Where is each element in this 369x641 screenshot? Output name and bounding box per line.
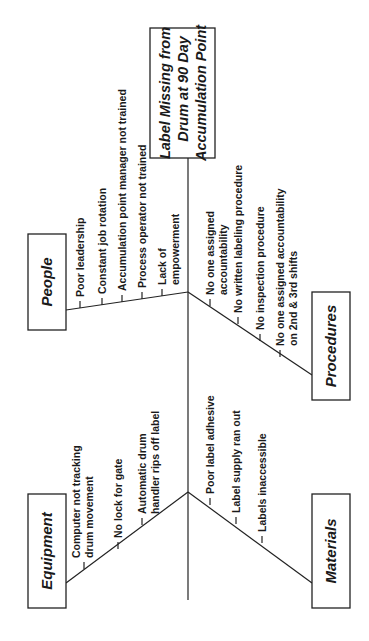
cause-no-one-shifts-1: No one assigned accountability: [274, 188, 286, 346]
category-equipment: Equipment: [28, 494, 66, 608]
cause-label-supply-ran-out: Label supply ran out: [230, 410, 242, 513]
cause-poor-leadership: Poor leadership: [74, 218, 86, 297]
effect-line-2: Drum at 90 Day: [175, 35, 191, 142]
cause-computer-not-tracking-2: drum movement: [83, 476, 95, 558]
cause-automatic-drum-2: handler rips off label: [149, 411, 161, 514]
cause-lack-of-empowerment-1: Lack of: [156, 248, 168, 285]
cause-no-inspection: No inspection procedure: [254, 206, 266, 330]
materials-causes: Poor label adhesive Label supply ran out…: [204, 395, 268, 543]
category-procedures: Procedures: [312, 292, 350, 400]
cause-automatic-drum-1: Automatic drum: [136, 433, 148, 514]
cause-no-one-assigned-1: No one assigned: [204, 211, 216, 295]
effect-line-3: Accumulation Point: [193, 24, 209, 162]
cause-no-one-assigned-2: accountability: [217, 224, 229, 295]
category-label-people: People: [38, 257, 55, 306]
effect-line-1: Label Missing from: [157, 27, 173, 159]
cause-computer-not-tracking-1: Computer not tracking: [70, 445, 82, 558]
cause-manager-not-trained: Accumulation point manager not trained: [116, 89, 128, 291]
effect-box: Label Missing from Drum at 90 Day Accumu…: [150, 24, 215, 162]
fishbone-diagram: Label Missing from Drum at 90 Day Accumu…: [0, 0, 369, 641]
cause-constant-job-rotation: Constant job rotation: [96, 188, 108, 294]
cause-no-one-shifts-2: on 2nd & 3rd shifts: [287, 251, 299, 346]
cause-no-lock-for-gate: No lock for gate: [112, 458, 124, 538]
cause-poor-label-adhesive: Poor label adhesive: [204, 395, 216, 494]
category-materials: Materials: [312, 494, 350, 608]
cause-no-written-labeling: No written labeling procedure: [232, 165, 244, 313]
category-label-procedures: Procedures: [322, 305, 339, 388]
procedures-causes: No one assigned accountability No writte…: [204, 165, 299, 357]
cause-lack-of-empowerment-2: empowerment: [169, 213, 181, 285]
materials-branch: [188, 492, 312, 583]
cause-operator-not-trained: Process operator not trained: [136, 144, 148, 288]
category-label-materials: Materials: [322, 518, 339, 583]
cause-labels-inaccessible: Labels inaccessible: [256, 433, 268, 532]
category-label-equipment: Equipment: [38, 511, 55, 590]
category-people: People: [28, 234, 66, 330]
equipment-causes: Computer not tracking drum movement No l…: [70, 411, 161, 569]
